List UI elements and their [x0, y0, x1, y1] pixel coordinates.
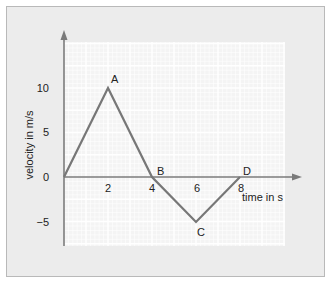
point-label-c: C: [197, 226, 205, 238]
point-label-d: D: [243, 165, 251, 177]
x-tick-label: 2: [105, 182, 111, 194]
x-axis-label: time in s: [242, 191, 283, 203]
x-tick-label: 4: [149, 182, 155, 194]
y-tick-label: 5: [43, 126, 49, 138]
point-label-a: A: [111, 73, 119, 85]
velocity-time-chart: 10 5 0 −5 2 4 6 8 A B C D time in s velo…: [0, 0, 329, 285]
y-tick-label: −5: [36, 216, 49, 228]
point-label-b: B: [157, 165, 164, 177]
y-tick-label: 0: [43, 171, 49, 183]
y-axis-label: velocity in m/s: [23, 110, 35, 180]
y-tick-label: 10: [37, 82, 49, 94]
x-tick-label: 6: [194, 182, 200, 194]
